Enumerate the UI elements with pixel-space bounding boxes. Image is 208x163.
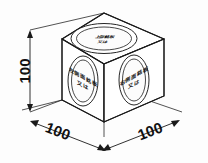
depth-dimension-label: 100 <box>43 118 72 143</box>
top-face-label-line1: 上部銘板 <box>94 34 117 39</box>
height-dimension-label: 100 <box>16 58 33 83</box>
drawing-canvas: 上部銘板 又は 左側面銘板 又は 右側面銘板 又は <box>0 0 208 163</box>
height-dimension-group: 100 <box>16 30 33 112</box>
width-arrow-left <box>102 144 111 151</box>
extension-line-bottomleft <box>30 100 62 112</box>
depth-arrow-left <box>30 120 39 127</box>
height-arrow-top <box>27 30 33 38</box>
top-face-recess: 上部銘板 又は <box>71 24 137 54</box>
depth-dimension-group: 100 <box>30 118 106 151</box>
left-face-recess: 左側面銘板 又は <box>68 56 98 106</box>
extension-line-bottomright <box>147 100 182 112</box>
width-arrow-right <box>171 120 180 127</box>
width-dimension-group: 100 <box>102 118 180 151</box>
isometric-cube-diagram: 上部銘板 又は 左側面銘板 又は 右側面銘板 又は <box>0 0 208 163</box>
top-recess-inner <box>77 27 132 50</box>
width-dimension-label: 100 <box>135 118 164 143</box>
right-face-recess: 右側面銘板 又は <box>119 55 149 105</box>
height-arrow-bottom <box>27 104 33 112</box>
